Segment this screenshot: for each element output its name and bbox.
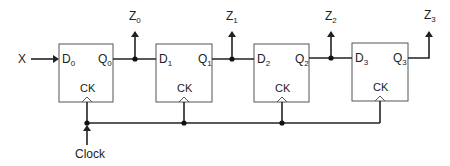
ck-label: CK	[177, 82, 193, 94]
q-pin-label: Q1	[198, 52, 212, 68]
q-pin-label: Q3	[393, 51, 407, 67]
d-pin-label: D0	[62, 52, 76, 68]
flipflop-1: D1 Q1 CK	[156, 44, 212, 102]
flipflop-0: D0 Q0 CK	[59, 44, 113, 102]
junction-dot	[328, 55, 333, 60]
ck-label: CK	[275, 82, 291, 94]
output-z0-label: Z0	[129, 9, 141, 25]
d-pin-label: D1	[159, 52, 173, 68]
ck-label: CK	[373, 81, 389, 93]
flipflop-2: D2 Q2 CK	[254, 44, 309, 102]
junction-dot	[181, 120, 186, 125]
flipflop-3: D3 Q3 CK	[352, 43, 408, 101]
ck-label: CK	[80, 82, 96, 94]
q-pin-label: Q2	[295, 52, 309, 68]
junction-dot	[279, 120, 284, 125]
wire-q3-z3	[408, 32, 429, 58]
d-pin-label: D2	[257, 52, 271, 68]
junction-dot	[84, 120, 89, 125]
input-x-label: X	[18, 52, 26, 66]
q-pin-label: Q0	[98, 52, 112, 68]
clock-triangle-icon	[179, 97, 189, 102]
output-z2-label: Z2	[325, 9, 337, 25]
output-z3-label: Z3	[424, 8, 436, 24]
junction-dot	[229, 56, 234, 61]
shift-register-diagram: X D0 Q0 CK D1 Q1 CK D2 Q2 CK D3 Q3 CK	[0, 0, 450, 166]
d-pin-label: D3	[355, 51, 369, 67]
junction-dot	[132, 56, 137, 61]
clock-label: Clock	[75, 147, 106, 161]
clock-triangle-icon	[277, 97, 287, 102]
output-z1-label: Z1	[226, 9, 238, 25]
clock-triangle-icon	[82, 97, 92, 102]
clock-triangle-icon	[375, 96, 385, 101]
